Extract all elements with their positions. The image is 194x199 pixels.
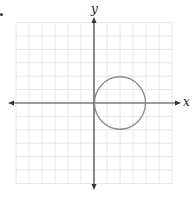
x-axis-left-arrow-icon: [8, 101, 14, 106]
x-axis-label: x: [183, 96, 190, 108]
x-axis-right-arrow-icon: [175, 101, 181, 106]
y-axis-top-arrow-icon: [92, 17, 97, 23]
y-axis-label: y: [91, 3, 98, 15]
y-axis-bottom-arrow-icon: [92, 184, 97, 190]
coordinate-plane: [0, 0, 194, 199]
